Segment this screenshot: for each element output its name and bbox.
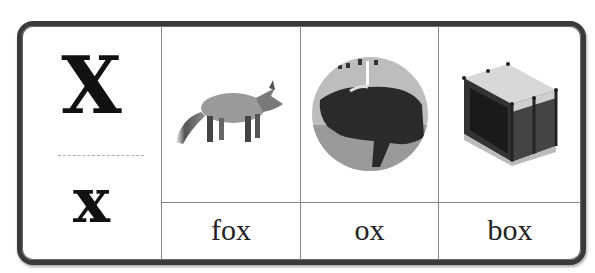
dashed-divider — [58, 155, 144, 156]
word-column-ox: ox — [301, 26, 439, 260]
word-column-fox: fox — [162, 26, 301, 260]
word-column-box: box — [439, 26, 581, 260]
word-label-fox: fox — [162, 203, 300, 260]
box-image — [439, 26, 581, 203]
uppercase-letter: X — [22, 46, 161, 126]
letter-card: X x fox — [17, 21, 586, 265]
letter-column: X x — [22, 26, 162, 260]
word-label-box: box — [439, 203, 581, 260]
fox-image — [162, 26, 300, 203]
word-label-ox: ox — [301, 203, 438, 260]
lowercase-letter: x — [22, 166, 161, 236]
ox-image — [301, 26, 438, 203]
